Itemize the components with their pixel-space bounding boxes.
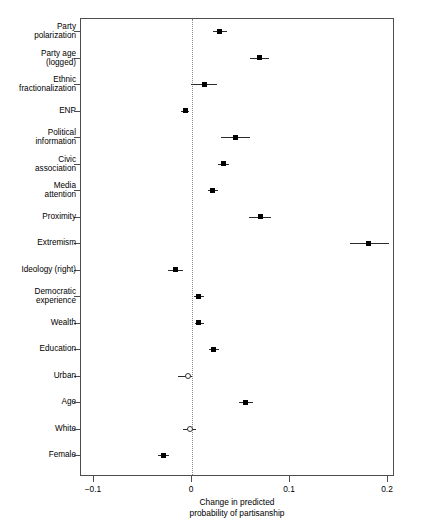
estimate-marker xyxy=(173,267,178,272)
x-axis-tick xyxy=(387,476,388,482)
estimate-marker xyxy=(187,426,193,432)
x-axis-tick xyxy=(289,476,290,482)
estimate-marker xyxy=(233,135,238,140)
x-axis-title: Change in predicted probability of parti… xyxy=(80,497,394,518)
estimate-marker xyxy=(210,188,215,193)
estimate-marker xyxy=(196,294,201,299)
x-axis-tick-label: 0 xyxy=(171,484,211,494)
y-axis-label: Political information xyxy=(0,128,76,147)
x-axis-tick-label: 0.2 xyxy=(367,484,407,494)
estimate-marker xyxy=(161,453,166,458)
estimate-marker xyxy=(183,108,188,113)
estimate-marker xyxy=(185,373,191,379)
y-axis-label: Civic association xyxy=(0,154,76,173)
y-axis-label: Wealth xyxy=(0,318,76,327)
x-axis-tick-label: −0.1 xyxy=(73,484,113,494)
y-axis-label: Ethnic fractionalization xyxy=(0,75,76,94)
estimate-marker xyxy=(366,241,371,246)
estimate-marker xyxy=(211,347,216,352)
coefficient-plot-figure: Party polarizationParty age (logged)Ethn… xyxy=(0,0,425,524)
zero-reference-line xyxy=(192,19,193,475)
x-axis-tick xyxy=(93,476,94,482)
y-axis-label: Media attention xyxy=(0,181,76,200)
estimate-marker xyxy=(257,55,262,60)
y-axis-label: Party polarization xyxy=(0,22,76,41)
estimate-marker xyxy=(221,161,226,166)
y-axis-label: Urban xyxy=(0,371,76,380)
y-axis-label: ENP xyxy=(0,106,76,115)
estimate-marker xyxy=(217,29,222,34)
y-axis-label: Age xyxy=(0,397,76,406)
y-axis-label: White xyxy=(0,424,76,433)
y-axis-label: Education xyxy=(0,344,76,353)
y-axis-label: Proximity xyxy=(0,212,76,221)
y-axis-label: Democratic experience xyxy=(0,287,76,306)
y-axis-label: Extremism xyxy=(0,238,76,247)
estimate-marker xyxy=(258,214,263,219)
x-axis-tick xyxy=(191,476,192,482)
estimate-marker xyxy=(196,320,201,325)
y-axis-label: Party age (logged) xyxy=(0,48,76,67)
plot-panel xyxy=(80,18,394,476)
estimate-marker xyxy=(243,400,248,405)
estimate-marker xyxy=(202,82,207,87)
y-axis-label: Female xyxy=(0,450,76,459)
y-axis-label: Ideology (right) xyxy=(0,265,76,274)
x-axis-tick-label: 0.1 xyxy=(269,484,309,494)
